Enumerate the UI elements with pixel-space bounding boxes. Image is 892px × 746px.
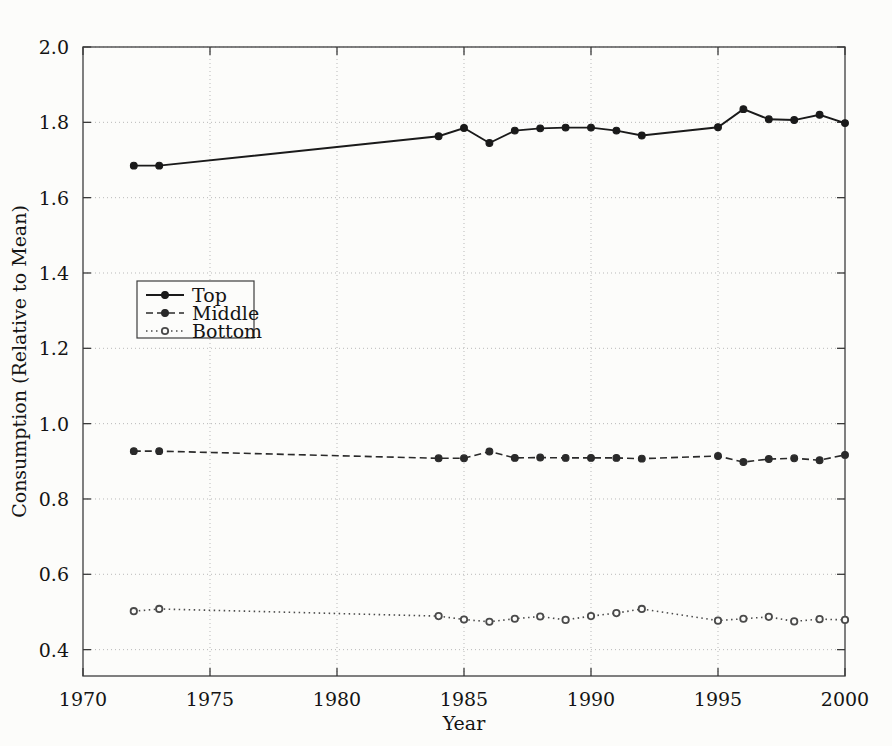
chart-legend: TopMiddleBottom — [137, 281, 262, 342]
data-point-marker — [537, 125, 544, 132]
legend-marker-sample — [162, 292, 169, 299]
data-point-marker — [511, 127, 518, 134]
y-tick-label: 2.0 — [39, 36, 69, 58]
x-tick-label: 1970 — [59, 688, 107, 710]
y-tick-label: 0.6 — [39, 563, 69, 585]
legend-label-bottom: Bottom — [192, 320, 262, 342]
data-point-marker — [791, 117, 798, 124]
y-tick-label: 1.2 — [39, 337, 69, 359]
data-point-marker — [130, 162, 137, 169]
data-point-marker — [740, 106, 747, 113]
axes-frame — [83, 47, 845, 676]
data-point-marker — [765, 456, 772, 463]
y-tick-label: 1.6 — [39, 187, 69, 209]
data-point-marker — [588, 124, 595, 131]
data-point-marker — [461, 125, 468, 132]
series-bottom — [131, 606, 849, 625]
x-tick-label: 1990 — [567, 688, 615, 710]
data-point-marker — [842, 120, 849, 127]
data-point-marker — [562, 617, 568, 623]
series-top — [130, 106, 848, 169]
data-point-marker — [486, 448, 493, 455]
data-point-marker — [156, 448, 163, 455]
data-point-marker — [461, 455, 468, 462]
y-tick-label: 0.4 — [39, 639, 69, 661]
data-point-marker — [511, 455, 518, 462]
x-tick-label: 1975 — [186, 688, 234, 710]
data-point-marker — [562, 455, 569, 462]
x-tick-label: 2000 — [821, 688, 869, 710]
x-tick-labels: 1970197519801985199019952000 — [59, 688, 869, 710]
y-tick-labels: 0.40.60.81.01.21.41.61.82.0 — [39, 36, 69, 661]
data-point-marker — [638, 132, 645, 139]
data-point-marker — [461, 616, 467, 622]
data-point-marker — [842, 617, 848, 623]
y-tick-label: 1.4 — [39, 262, 69, 284]
data-point-marker — [638, 455, 645, 462]
data-point-marker — [435, 455, 442, 462]
data-point-marker — [588, 613, 594, 619]
plot-frame — [83, 47, 845, 676]
y-tick-label: 1.0 — [39, 413, 69, 435]
data-point-marker — [131, 608, 137, 614]
series-line — [134, 109, 845, 165]
data-point-marker — [156, 606, 162, 612]
data-point-marker — [486, 140, 493, 147]
data-point-marker — [613, 455, 620, 462]
x-tick-label: 1995 — [694, 688, 742, 710]
data-point-marker — [791, 455, 798, 462]
data-point-marker — [715, 453, 722, 460]
x-tick-label: 1980 — [313, 688, 361, 710]
data-point-marker — [740, 459, 747, 466]
data-point-marker — [486, 619, 492, 625]
data-point-marker — [816, 111, 823, 118]
data-point-marker — [537, 454, 544, 461]
data-point-marker — [715, 124, 722, 131]
legend-marker-sample — [162, 310, 169, 317]
data-point-marker — [766, 614, 772, 620]
data-point-marker — [562, 124, 569, 131]
y-tick-label: 1.8 — [39, 111, 69, 133]
grid-lines — [83, 47, 845, 676]
data-point-marker — [435, 133, 442, 140]
x-axis-title: Year — [442, 712, 486, 734]
data-point-marker — [512, 616, 518, 622]
y-axis-title: Consumption (Relative to Mean) — [8, 205, 30, 518]
data-point-marker — [613, 610, 619, 616]
data-point-marker — [740, 616, 746, 622]
axis-ticks — [83, 47, 845, 676]
data-point-marker — [816, 457, 823, 464]
legend-marker-sample — [162, 328, 168, 334]
data-point-marker — [537, 613, 543, 619]
y-tick-label: 0.8 — [39, 488, 69, 510]
data-point-marker — [435, 613, 441, 619]
data-point-marker — [816, 616, 822, 622]
series-middle — [130, 448, 848, 466]
x-tick-label: 1985 — [440, 688, 488, 710]
data-point-marker — [130, 448, 137, 455]
data-point-marker — [156, 162, 163, 169]
data-point-marker — [613, 127, 620, 134]
data-point-marker — [842, 452, 849, 459]
data-point-marker — [765, 116, 772, 123]
data-series — [130, 106, 848, 625]
chart-canvas: 1970197519801985199019952000 0.40.60.81.… — [0, 0, 892, 746]
data-point-marker — [715, 617, 721, 623]
data-point-marker — [791, 618, 797, 624]
data-point-marker — [588, 455, 595, 462]
line-chart: 1970197519801985199019952000 0.40.60.81.… — [0, 0, 892, 746]
data-point-marker — [639, 606, 645, 612]
